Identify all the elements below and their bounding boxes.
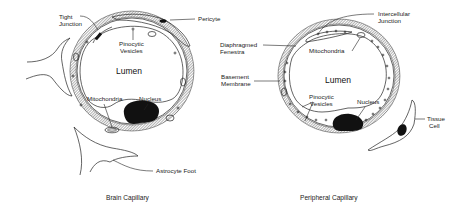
caption-brain-capillary: Brain Capillary [106, 194, 150, 202]
brain-capillary-panel: Tight Junction Pericyte Pinocytic Vesicl… [26, 11, 221, 202]
leader-peripheral-mitochondria [352, 38, 360, 51]
label-pericyte: Pericyte [198, 15, 221, 22]
tissue-cell-nucleus [396, 123, 409, 137]
brain-vesicle [86, 41, 88, 43]
label-brain-pinocytic-1: Pinocytic [119, 40, 144, 47]
brain-lumen-label: Lumen [116, 66, 142, 76]
peripheral-lumen-label: Lumen [325, 75, 351, 85]
astrocyte-foot-upper [26, 38, 72, 96]
peripheral-capillary-panel: Intercellular Junction Diaphragmed Fenes… [220, 10, 446, 202]
label-diaphragmed-fenestra-1: Diaphragmed [220, 41, 258, 48]
label-basement-membrane-1: Basement [221, 73, 249, 80]
label-peripheral-pinocytic-1: Pinocytic [309, 93, 334, 100]
label-brain-mitochondria: Mitochondria [87, 95, 123, 102]
label-peripheral-mitochondria: Mitochondria [309, 47, 345, 54]
label-brain-pinocytic-2: Vesicles [120, 47, 143, 54]
label-tissue-cell-2: Cell [429, 122, 440, 129]
tissue-cell [368, 100, 415, 151]
label-intercellular-junction-2: Junction [378, 17, 402, 24]
label-tight-junction-1: Tight [59, 13, 73, 20]
caption-peripheral-capillary: Peripheral Capillary [300, 194, 358, 202]
label-tissue-cell-1: Tissue [427, 115, 446, 122]
brain-nucleus [124, 101, 159, 124]
leader-peripheral-nucleus [356, 107, 365, 120]
brain-vesicle [174, 52, 176, 54]
astrocyte-foot-lower [74, 127, 138, 175]
label-intercellular-junction-1: Intercellular [378, 10, 410, 17]
label-tight-junction-2: Junction [59, 20, 83, 27]
label-peripheral-nucleus: Nucleus [357, 98, 379, 105]
capillary-diagram: Tight Junction Pericyte Pinocytic Vesicl… [0, 0, 469, 207]
label-peripheral-pinocytic-2: Vesicles [310, 100, 333, 107]
label-diaphragmed-fenestra-2: Fenestra [220, 48, 245, 55]
brain-mitochondrion [181, 78, 186, 86]
label-astrocyte-foot: Astrocyte Foot [156, 167, 196, 174]
tight-junction-marker [95, 32, 102, 40]
pericyte-nucleus [160, 19, 167, 23]
brain-mitochondrion-cristae [108, 129, 117, 131]
brain-mitochondrion [148, 32, 156, 37]
label-brain-nucleus: Nucleus [139, 95, 161, 102]
label-basement-membrane-2: Membrane [221, 80, 251, 87]
leader-astrocyte-foot [113, 160, 153, 171]
leader-pericyte [170, 19, 195, 20]
brain-vesicle [132, 28, 134, 30]
